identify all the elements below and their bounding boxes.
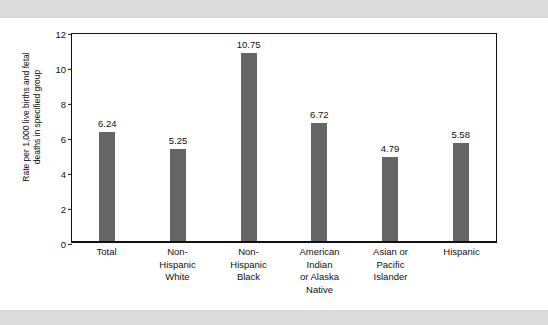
x-axis-tick-label: Non- Hispanic White <box>142 246 213 296</box>
bar-value-label: 4.79 <box>381 143 400 154</box>
y-axis-tick-label: 0 <box>36 239 72 250</box>
bottom-decorative-band <box>0 310 548 325</box>
bar[interactable] <box>241 53 257 241</box>
y-axis-tick-label: 6 <box>36 134 72 145</box>
bar[interactable] <box>170 149 186 241</box>
bar-series-total-fetal-mortality: 6.245.2510.756.724.795.58 <box>72 34 496 241</box>
plot-area: 024681012 6.245.2510.756.724.795.58 <box>71 33 497 243</box>
bar[interactable] <box>382 157 398 241</box>
bar-chart-figure: Rate per 1,000 live births and fetal dea… <box>0 18 548 310</box>
bar-group: 5.58 <box>425 34 496 241</box>
x-axis-tick-label: Hispanic <box>426 246 497 296</box>
bar-group: 5.25 <box>143 34 214 241</box>
y-axis-title: Rate per 1,000 live births and fetal dea… <box>21 17 43 217</box>
bar-group: 10.75 <box>213 34 284 241</box>
bar-value-label: 6.72 <box>310 109 329 120</box>
bar-group: 6.24 <box>72 34 143 241</box>
x-axis-tick-label: Non- Hispanic Black <box>213 246 284 296</box>
top-decorative-band <box>0 0 548 18</box>
bar-value-label: 5.25 <box>169 135 188 146</box>
x-axis-tick-label: Total <box>71 246 142 296</box>
y-axis-tick-label: 2 <box>36 204 72 215</box>
y-axis-tick-label: 4 <box>36 169 72 180</box>
bar[interactable] <box>311 123 327 241</box>
y-axis-tick-label: 12 <box>36 29 72 40</box>
bar-value-label: 5.58 <box>451 129 470 140</box>
bar[interactable] <box>99 132 115 241</box>
x-axis-tick-label: American Indian or Alaska Native <box>284 246 355 296</box>
bar-group: 6.72 <box>284 34 355 241</box>
bar-value-label: 6.24 <box>98 118 117 129</box>
y-axis-tick-label: 8 <box>36 99 72 110</box>
bar[interactable] <box>453 143 469 241</box>
y-axis-tick-mark <box>68 243 72 244</box>
bar-value-label: 10.75 <box>237 39 261 50</box>
y-axis-tick-label: 10 <box>36 64 72 75</box>
x-axis-tick-label-group: TotalNon- Hispanic WhiteNon- Hispanic Bl… <box>71 246 497 296</box>
x-axis-tick-label: Asian or Pacific Islander <box>355 246 426 296</box>
bar-group: 4.79 <box>355 34 426 241</box>
